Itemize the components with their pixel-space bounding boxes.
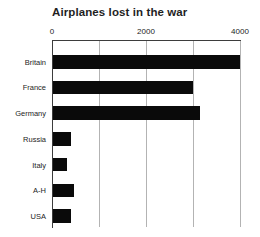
category-label-britain: Britain xyxy=(0,57,46,66)
category-label-russia: Russia xyxy=(0,134,46,143)
category-label-italy: Italy xyxy=(0,160,46,169)
gridline-3000 xyxy=(193,41,194,227)
bar-chart: Airplanes lost in the war 020004000Brita… xyxy=(0,0,260,237)
gridline-4000 xyxy=(240,41,241,227)
category-label-france: France xyxy=(0,83,46,92)
category-label-a-h: A-H xyxy=(0,186,46,195)
bar-germany xyxy=(53,106,200,120)
gridline-1000 xyxy=(99,41,100,227)
category-label-germany: Germany xyxy=(0,109,46,118)
bar-britain xyxy=(53,55,240,69)
category-label-usa: USA xyxy=(0,211,46,220)
bar-italy xyxy=(53,158,67,172)
x-tick-label-2000: 2000 xyxy=(137,27,155,36)
bar-russia xyxy=(53,132,71,146)
x-tick-label-4000: 4000 xyxy=(231,27,249,36)
x-axis-line xyxy=(52,40,241,41)
bar-france xyxy=(53,81,193,95)
bar-usa xyxy=(53,209,71,223)
gridline-2000 xyxy=(146,41,147,227)
x-tick-label-0: 0 xyxy=(50,27,54,36)
chart-title: Airplanes lost in the war xyxy=(52,6,187,18)
bar-a-h xyxy=(53,184,74,198)
